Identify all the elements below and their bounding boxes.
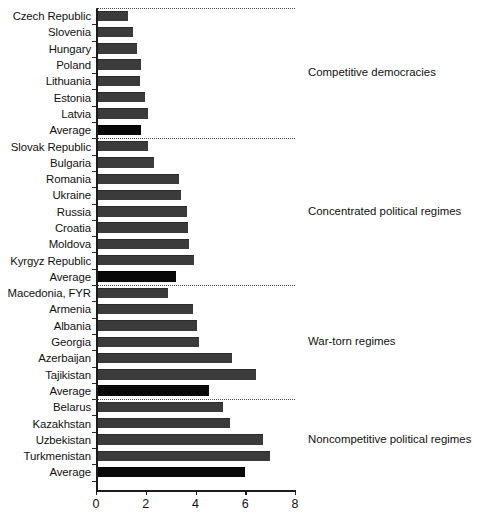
group-separator <box>96 399 295 400</box>
group-annotation-label: Concentrated political regimes <box>308 205 461 218</box>
value-bar <box>96 434 263 444</box>
bar-row-label: Kyrgyz Republic <box>10 255 91 267</box>
x-axis-tick-label: 2 <box>142 497 149 511</box>
bar-row: Azerbaijan <box>96 350 295 366</box>
bar-row: Uzbekistan <box>96 432 295 448</box>
bar-row-label: Average <box>49 124 91 136</box>
value-bar <box>96 304 193 314</box>
bar-row-label: Ukraine <box>52 189 91 201</box>
plot-top-separator <box>96 8 295 9</box>
value-bar <box>96 320 197 330</box>
bar-row: Lithuania <box>96 73 295 89</box>
bar-row: Romania <box>96 171 295 187</box>
bar-row-label: Armenia <box>49 303 91 315</box>
average-bar <box>96 467 245 477</box>
bar-row-label: Macedonia, FYR <box>8 287 91 299</box>
bar-row: Average <box>96 269 295 285</box>
x-axis-tick <box>196 490 197 495</box>
bar-chart: Czech RepublicSloveniaHungaryPolandLithu… <box>0 0 477 524</box>
bar-row-label: Croatia <box>55 222 91 234</box>
value-bar <box>96 402 223 412</box>
bar-row-label: Georgia <box>51 336 91 348</box>
bar-row-label: Russia <box>57 206 91 218</box>
bar-row-label: Romania <box>46 173 91 185</box>
value-bar <box>96 288 168 298</box>
bar-row: Bulgaria <box>96 155 295 171</box>
bar-row: Albania <box>96 318 295 334</box>
value-bar <box>96 369 256 379</box>
value-bar <box>96 206 187 216</box>
bar-row-label: Average <box>49 466 91 478</box>
x-axis-tick-label: 6 <box>242 497 249 511</box>
bar-row: Moldova <box>96 236 295 252</box>
bar-row: Croatia <box>96 220 295 236</box>
x-axis-tick-label: 0 <box>93 497 100 511</box>
group-annotation-label: War-torn regimes <box>308 335 396 348</box>
bar-row: Macedonia, FYR <box>96 285 295 301</box>
average-bar <box>96 385 209 395</box>
value-bar <box>96 255 194 265</box>
bar-row-label: Turkmenistan <box>24 450 91 462</box>
bar-row: Latvia <box>96 106 295 122</box>
value-bar <box>96 337 199 347</box>
x-axis-tick-label: 4 <box>192 497 199 511</box>
bar-row: Tajikistan <box>96 367 295 383</box>
bar-row: Kyrgyz Republic <box>96 252 295 268</box>
average-bar <box>96 125 141 135</box>
y-axis-spine <box>96 8 98 490</box>
bar-row: Average <box>96 122 295 138</box>
bar-row-label: Slovenia <box>48 26 91 38</box>
bar-row: Ukraine <box>96 187 295 203</box>
group-annotation-label: Noncompetitive political regimes <box>308 433 471 446</box>
bar-row: Armenia <box>96 301 295 317</box>
value-bar <box>96 76 140 86</box>
x-axis-tick <box>245 490 246 495</box>
value-bar <box>96 157 154 167</box>
bar-row: Average <box>96 464 295 480</box>
bar-row-label: Latvia <box>61 108 91 120</box>
bar-row: Poland <box>96 57 295 73</box>
value-bar <box>96 190 181 200</box>
plot-area: Czech RepublicSloveniaHungaryPolandLithu… <box>96 8 295 490</box>
bar-row-label: Bulgaria <box>50 157 91 169</box>
bar-row-label: Lithuania <box>46 75 91 87</box>
value-bar <box>96 222 188 232</box>
bar-row-label: Moldova <box>49 238 91 250</box>
value-bar <box>96 92 145 102</box>
value-bar <box>96 239 189 249</box>
bar-row-label: Czech Republic <box>13 10 91 22</box>
bar-row-label: Estonia <box>54 92 91 104</box>
bar-row: Turkmenistan <box>96 448 295 464</box>
bar-row-label: Uzbekistan <box>36 434 91 446</box>
bar-row: Russia <box>96 204 295 220</box>
bar-row-label: Average <box>49 385 91 397</box>
group-annotation-label: Competitive democracies <box>308 66 436 79</box>
bar-row-label: Kazakhstan <box>32 418 91 430</box>
bar-row: Slovak Republic <box>96 138 295 154</box>
x-axis-tick <box>146 490 147 495</box>
bar-row-label: Average <box>49 271 91 283</box>
bar-row-label: Hungary <box>49 43 91 55</box>
value-bar <box>96 59 141 69</box>
bar-row-label: Albania <box>54 320 91 332</box>
value-bar <box>96 141 148 151</box>
bar-row: Average <box>96 383 295 399</box>
bar-row-label: Poland <box>56 59 91 71</box>
value-bar <box>96 108 148 118</box>
bar-row-label: Azerbaijan <box>38 352 91 364</box>
bar-row-label: Belarus <box>53 401 91 413</box>
value-bar <box>96 27 133 37</box>
value-bar <box>96 418 230 428</box>
value-bar <box>96 353 232 363</box>
group-separator <box>96 138 295 139</box>
value-bar <box>96 174 179 184</box>
bar-row-label: Tajikistan <box>45 369 91 381</box>
bar-row: Hungary <box>96 41 295 57</box>
average-bar <box>96 271 176 281</box>
bar-rows: Czech RepublicSloveniaHungaryPolandLithu… <box>96 8 295 481</box>
bar-row: Georgia <box>96 334 295 350</box>
group-separator <box>96 285 295 286</box>
bar-row: Czech Republic <box>96 8 295 24</box>
value-bar <box>96 451 270 461</box>
value-bar <box>96 43 137 53</box>
